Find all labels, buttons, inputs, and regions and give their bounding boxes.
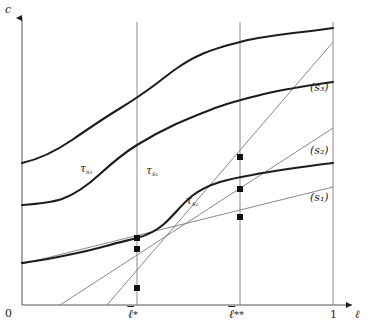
l-double-star-bar-wrap: ℓ [229, 308, 234, 320]
tau-s3-subscript: s₃ [86, 168, 92, 176]
curve-tau-s3 [22, 28, 333, 163]
curve-label-tau-s1: τs₁ [186, 195, 198, 208]
tick-label-l-double-star: ℓ** [229, 308, 244, 320]
thin-series-group [22, 42, 333, 305]
marker-tau-s1-at-l-double-star [237, 214, 243, 220]
tau-s1-subscript: s₁ [192, 200, 198, 208]
tick-label-origin: 0 [5, 308, 12, 319]
overbar-glyph-2 [228, 306, 235, 307]
figure-root: c ℓ 0 1 ℓ* ℓ** τs₃ τs₂ τs₁ (s₃) (s₂) (s₁… [0, 0, 369, 332]
marker-s1-line-at-l-star [134, 246, 140, 252]
series-label-s3: (s₃) [310, 82, 329, 93]
line-s1 [22, 187, 333, 264]
curve-label-tau-s3: τs₃ [80, 163, 92, 176]
marker-s2-line-at-l-double-star [237, 186, 243, 192]
tick-label-l-star: ℓ* [128, 308, 138, 320]
marker-tau-s2-at-l-double-star [237, 154, 243, 160]
l-star-bar-wrap: ℓ [128, 308, 133, 320]
series-label-s2: (s₂) [310, 145, 329, 156]
curve-label-tau-s2: τs₂ [146, 165, 158, 178]
curve-tau-s1 [22, 163, 333, 263]
tick-label-one: 1 [330, 309, 337, 320]
series-label-s1: (s₁) [310, 192, 329, 203]
x-axis-label: ℓ [355, 309, 360, 320]
l-double-star-mark: ** [234, 309, 244, 320]
l-star-base: ℓ [128, 307, 133, 321]
line-s2 [60, 128, 333, 305]
marker-tau-s1-at-l-star [134, 235, 140, 241]
marker-s3-line-at-l-star [134, 285, 140, 291]
overbar-glyph [127, 306, 134, 307]
tau-curves-group [22, 28, 333, 263]
tau-s2-subscript: s₂ [152, 170, 158, 178]
line-s3 [107, 42, 333, 305]
l-star-mark: * [133, 309, 138, 320]
plot-canvas [0, 0, 369, 332]
vertical-reference-lines [137, 22, 333, 305]
l-double-star-base: ℓ [229, 307, 234, 321]
y-axis-label: c [5, 4, 11, 15]
